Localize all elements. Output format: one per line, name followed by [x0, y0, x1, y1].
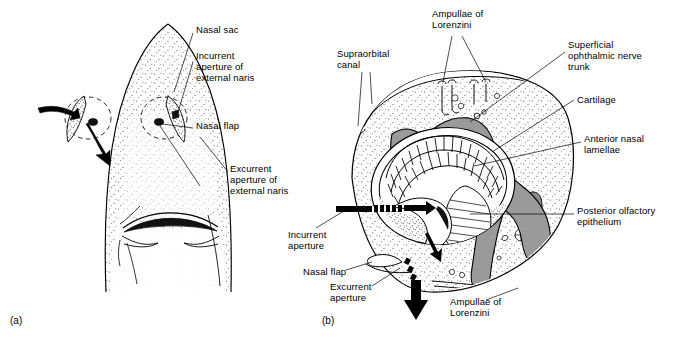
label-nasal-flap: Nasal flap [196, 120, 239, 131]
incurrent-arrow-shaft [336, 206, 372, 212]
panel-label-a: (a) [10, 315, 22, 326]
nasal-flap-left [67, 96, 86, 142]
label-excurrent-aperture: Excurrent aperture [330, 281, 372, 303]
supraorbital-canal-pore [355, 122, 365, 133]
label-posterior-olfactory-epithelium: Posterior olfactory epithelium [577, 205, 655, 227]
label-incurrent-aperture-external-naris: Incurrent aperture of external naris [196, 50, 254, 84]
label-anterior-nasal-lamellae: Anterior nasal lamellae [584, 133, 644, 155]
excurrent-flow-arrow-a [86, 123, 110, 166]
nostril-left-group [38, 96, 111, 166]
label-ampullae-of-lorenzini-bottom: Ampullae of Lorenzini [450, 296, 501, 318]
label-nasal-flap-b: Nasal flap [303, 266, 346, 277]
label-cartilage: Cartilage [577, 94, 616, 105]
panel-label-b: (b) [322, 315, 334, 326]
label-nasal-sac: Nasal sac [196, 24, 239, 35]
excurrent-aperture-left [88, 119, 97, 126]
excurrent-aperture-right [154, 119, 163, 126]
panel-b-section [316, 36, 582, 320]
label-ampullae-of-lorenzini-top: Ampullae of Lorenzini [432, 8, 483, 30]
figure-olfactory-organ: Nasal sac Incurrent aperture of external… [0, 0, 682, 338]
label-supraorbital-canal: Supraorbital canal [337, 48, 389, 70]
label-superficial-ophthalmic-nerve-trunk: Superficial ophthalmic nerve trunk [568, 39, 642, 73]
label-incurrent-aperture: Incurrent aperture [288, 229, 326, 251]
label-excurrent-aperture-external-naris: Excurrent aperture of external naris [230, 163, 288, 197]
